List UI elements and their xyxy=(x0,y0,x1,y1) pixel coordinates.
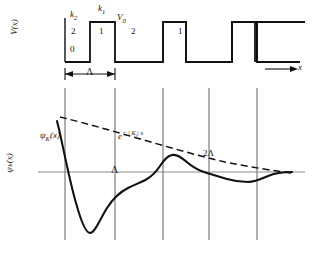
figure-container: V(x) ψₖ(x) k2 k1 V0 2 1 2 1 0 Λ x ψK(x) … xyxy=(0,0,315,254)
label-double-period-lambda: 2Λ xyxy=(203,148,214,158)
label-period-lambda-bottom: Λ xyxy=(111,164,118,175)
period-arrowhead-right xyxy=(107,71,115,77)
potential-square-wave xyxy=(65,22,257,62)
axis-label-x: x xyxy=(298,62,302,72)
label-zero-level: 0 xyxy=(70,44,75,54)
label-wavefunction-curve: ψK(x) xyxy=(40,130,60,142)
potential-square-wave-tail xyxy=(232,22,300,62)
period-arrowhead-left xyxy=(65,71,73,77)
region-label-1-first: 1 xyxy=(99,26,104,36)
label-k1: k1 xyxy=(98,3,105,15)
label-k2: k2 xyxy=(70,9,77,21)
label-period-lambda-top: Λ xyxy=(86,66,93,77)
label-decay-envelope: e− | Ki| x xyxy=(118,129,143,141)
bottom-panel xyxy=(38,117,305,233)
axis-label-psi-of-x: ψₖ(x) xyxy=(4,137,14,189)
region-label-1-second: 1 xyxy=(178,26,183,36)
potential-square-wave-right xyxy=(163,22,255,62)
axis-label-v-of-x: V(x) xyxy=(9,4,19,50)
region-label-2-first: 2 xyxy=(71,26,76,36)
figure-canvas xyxy=(0,0,315,254)
label-v0: V0 xyxy=(117,12,126,24)
region-label-2-second: 2 xyxy=(131,26,136,36)
x-axis-arrowhead xyxy=(290,66,298,72)
potential-square-wave-last xyxy=(257,22,305,62)
